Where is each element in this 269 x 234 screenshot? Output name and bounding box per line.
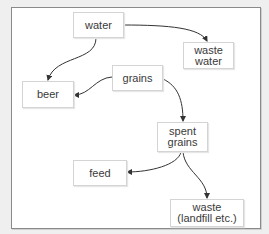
node-water: water — [73, 12, 124, 38]
node-grains-label: grains — [123, 73, 153, 84]
node-water-label: water — [85, 20, 112, 31]
node-grains: grains — [112, 65, 163, 91]
node-feed-label: feed — [89, 168, 110, 179]
edge-spent-grains-to-waste — [183, 152, 207, 198]
node-waste: waste (landfill etc.) — [170, 199, 244, 227]
node-beer-label: beer — [37, 89, 59, 100]
edge-grains-to-beer — [74, 77, 112, 95]
node-spent-grains-label: spent grains — [168, 126, 198, 148]
node-waste-water: waste water — [183, 42, 234, 69]
node-spent-grains: spent grains — [157, 122, 208, 152]
node-waste-water-label: waste water — [194, 45, 223, 67]
edge-grains-to-spent-grains — [163, 79, 183, 121]
node-feed: feed — [73, 160, 127, 186]
edge-spent-grains-to-feed — [127, 152, 181, 172]
edge-water-to-beer — [48, 38, 96, 80]
edge-water-to-waste-water — [123, 25, 207, 41]
node-beer: beer — [22, 81, 74, 108]
node-waste-label: waste (landfill etc.) — [177, 202, 236, 224]
